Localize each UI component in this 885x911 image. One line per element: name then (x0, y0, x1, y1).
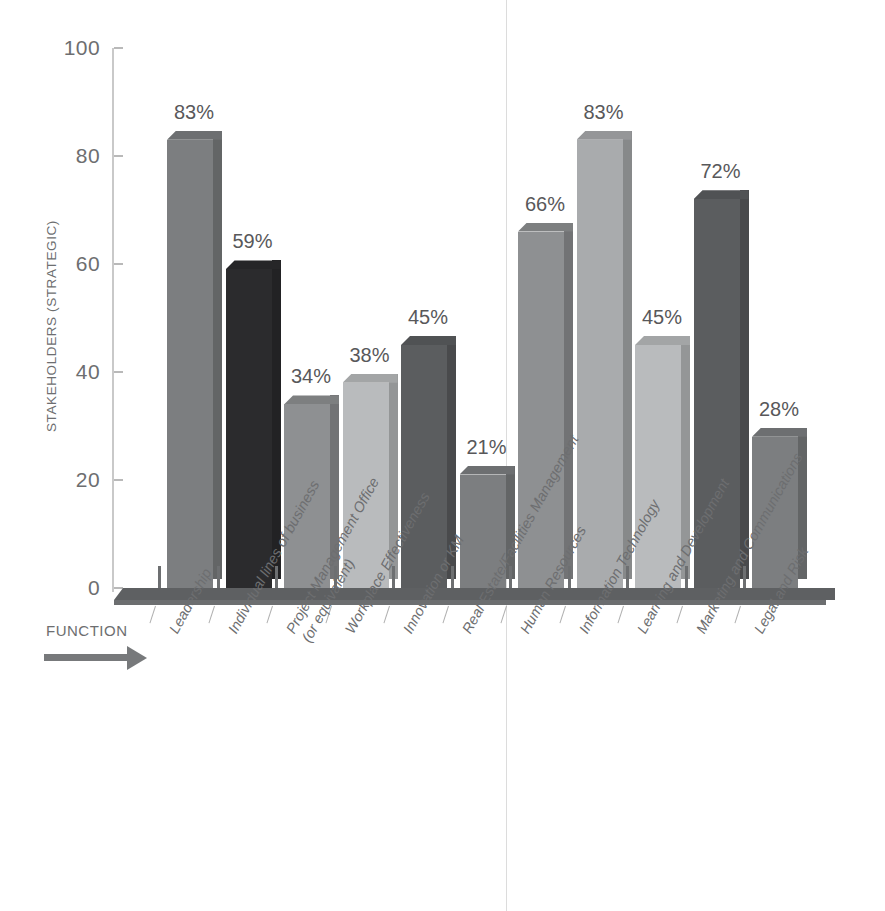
x-tick-mark (617, 606, 624, 623)
x-tick-mark (734, 606, 741, 623)
y-axis-line (112, 48, 114, 592)
bar-value-label: 28% (734, 398, 824, 421)
y-axis-title: STAKEHOLDERS (STRATEGIC) (44, 220, 59, 432)
y-tick-label: 100 (22, 36, 100, 60)
y-tick-mark (114, 587, 123, 589)
bar-side-face (623, 131, 632, 579)
x-tick-mark (559, 606, 566, 623)
bar-top-face (518, 223, 573, 232)
y-tick-mark (114, 155, 123, 157)
bar-top-face (460, 466, 515, 475)
bar-value-label: 59% (208, 230, 298, 253)
bar-value-label: 72% (676, 160, 766, 183)
bar-front-face (226, 269, 272, 588)
bar-front-face (577, 140, 623, 588)
y-tick-mark (114, 371, 123, 373)
y-tick-mark (114, 479, 123, 481)
y-tick-label: 0 (22, 576, 100, 600)
bar[interactable] (577, 140, 623, 588)
bar-value-label: 83% (559, 101, 649, 124)
bar-front-face (167, 140, 213, 588)
bar[interactable] (226, 269, 272, 588)
bar-top-face (694, 190, 749, 199)
y-tick-label: 80 (22, 144, 100, 168)
y-tick-label: 20 (22, 468, 100, 492)
bar-top-face (167, 131, 222, 140)
bar-top-face (284, 395, 339, 404)
y-tick-label: 40 (22, 360, 100, 384)
bar-top-face (401, 336, 456, 345)
y-tick-mark (114, 263, 123, 265)
bar-top-face (343, 374, 398, 383)
bar-top-face (752, 428, 807, 437)
y-tick-mark (114, 47, 123, 49)
x-tick-mark (266, 606, 273, 623)
bar-top-face (635, 336, 690, 345)
bar-value-label: 45% (383, 306, 473, 329)
bar-value-label: 83% (149, 101, 239, 124)
function-arrow-head-icon (127, 646, 147, 670)
function-arrow-shaft (44, 654, 129, 661)
bar-top-face (577, 131, 632, 140)
x-tick-mark (383, 606, 390, 623)
y-tick-label: 60 (22, 252, 100, 276)
bar-base-riser (158, 566, 161, 588)
chart-canvas: 020406080100 STAKEHOLDERS (STRATEGIC) 83… (0, 0, 885, 911)
bar[interactable] (167, 140, 213, 588)
x-axis-title: FUNCTION (46, 622, 128, 639)
x-tick-mark (676, 606, 683, 623)
x-tick-mark (208, 606, 215, 623)
bar-top-face (226, 260, 281, 269)
bar-side-face (740, 190, 749, 579)
bar-base-riser (217, 566, 220, 588)
bar-side-face (213, 131, 222, 579)
x-tick-mark (442, 606, 449, 623)
x-tick-mark (149, 606, 156, 623)
